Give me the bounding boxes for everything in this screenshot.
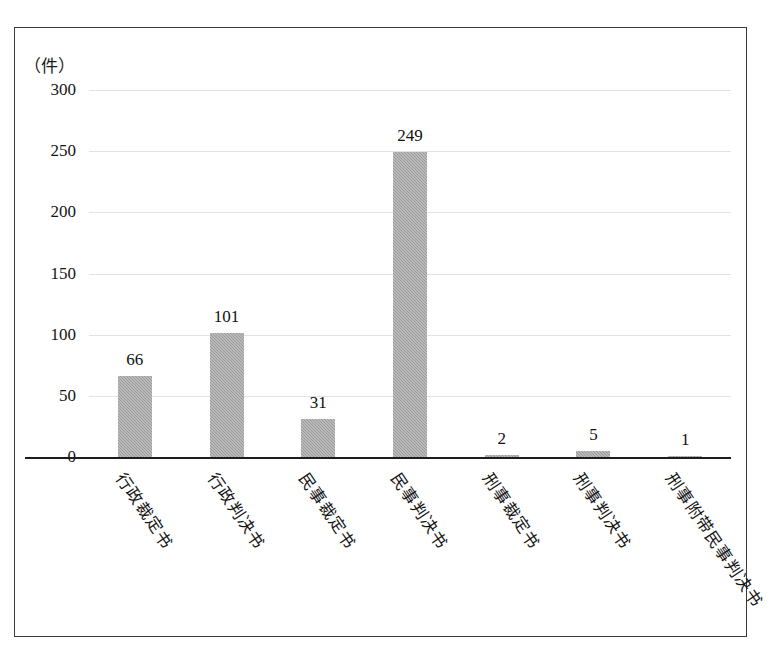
category-slot: 刑事附带民事判决书 (639, 465, 731, 635)
x-axis-line (25, 457, 731, 459)
bar[interactable] (393, 152, 427, 457)
y-axis-tick-label: 300 (51, 80, 77, 100)
category-label: 民事裁定书 (294, 467, 363, 553)
x-axis-category-labels: 行政裁定书行政判决书民事裁定书民事判决书刑事裁定书刑事判决书刑事附带民事判决书 (89, 465, 731, 635)
y-axis-unit-label: （件） (24, 52, 75, 77)
y-axis-tick-label: 200 (51, 202, 77, 222)
bar-value-label: 1 (681, 430, 690, 450)
bar-value-label: 31 (310, 393, 327, 413)
bar[interactable] (485, 455, 519, 457)
bar-slot: 1 (639, 90, 731, 457)
category-slot: 刑事判决书 (548, 465, 640, 635)
bar-slot: 101 (181, 90, 273, 457)
y-axis-tick-label: 150 (51, 264, 77, 284)
category-slot: 行政裁定书 (89, 465, 181, 635)
category-label: 刑事判决书 (570, 467, 639, 553)
y-axis-tick-label: 250 (51, 141, 77, 161)
bar[interactable] (210, 333, 244, 457)
figure-frame: （件） 050100150200250300 6610131249251 行政裁… (14, 27, 747, 637)
category-label: 刑事附带民事判决书 (661, 467, 769, 611)
category-slot: 行政判决书 (181, 465, 273, 635)
bar[interactable] (118, 376, 152, 457)
bar[interactable] (301, 419, 335, 457)
category-slot: 刑事裁定书 (456, 465, 548, 635)
y-axis-tick-label: 50 (59, 386, 76, 406)
category-label: 行政判决书 (203, 467, 272, 553)
bar-slot: 2 (456, 90, 548, 457)
bar[interactable] (668, 456, 702, 458)
bar-slot: 249 (364, 90, 456, 457)
category-label: 行政裁定书 (111, 467, 180, 553)
category-slot: 民事判决书 (364, 465, 456, 635)
bar-slot: 66 (89, 90, 181, 457)
bar-slot: 31 (272, 90, 364, 457)
bar-value-label: 249 (397, 126, 423, 146)
bar-value-label: 5 (589, 425, 598, 445)
y-axis-tick-label: 100 (51, 325, 77, 345)
bar-value-label: 2 (497, 429, 506, 449)
bar-slot: 5 (548, 90, 640, 457)
category-label: 刑事裁定书 (478, 467, 547, 553)
bar[interactable] (576, 451, 610, 457)
bar-value-label: 66 (126, 350, 143, 370)
category-label: 民事判决书 (386, 467, 455, 553)
category-slot: 民事裁定书 (272, 465, 364, 635)
plot-area: 050100150200250300 6610131249251 (89, 90, 731, 457)
bar-value-label: 101 (214, 307, 240, 327)
